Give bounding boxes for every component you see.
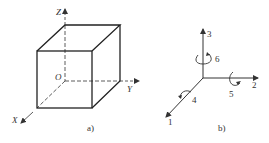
rotation-6-icon (196, 54, 211, 64)
axis-1-label: 1 (168, 117, 173, 127)
x-axis-arrow (21, 112, 33, 123)
rotation-6-label: 6 (215, 54, 220, 64)
y-axis-label: Y (127, 84, 133, 94)
rotation-5-label: 5 (229, 89, 234, 99)
diagram-canvas: Z Y X O a) 3 2 1 6 5 4 b) (0, 0, 269, 143)
caption-a: a) (87, 123, 94, 133)
hidden-edge-depth (37, 81, 65, 108)
cube-top-face (37, 25, 120, 51)
caption-b: b) (218, 123, 226, 133)
x-axis-label: X (11, 115, 18, 125)
axis-2-label: 2 (252, 80, 257, 90)
cube-figure: Z Y X O a) (11, 7, 139, 133)
origin-label: O (55, 72, 62, 82)
axes-figure: 3 2 1 6 5 4 b) (166, 29, 258, 133)
axis-1-arrow (166, 78, 203, 117)
rotation-4-arrowhead (178, 95, 182, 99)
cube-front-face (37, 51, 92, 108)
z-axis-label: Z (56, 7, 62, 17)
axis-3-label: 3 (207, 29, 212, 39)
rotation-4-label: 4 (192, 95, 197, 105)
